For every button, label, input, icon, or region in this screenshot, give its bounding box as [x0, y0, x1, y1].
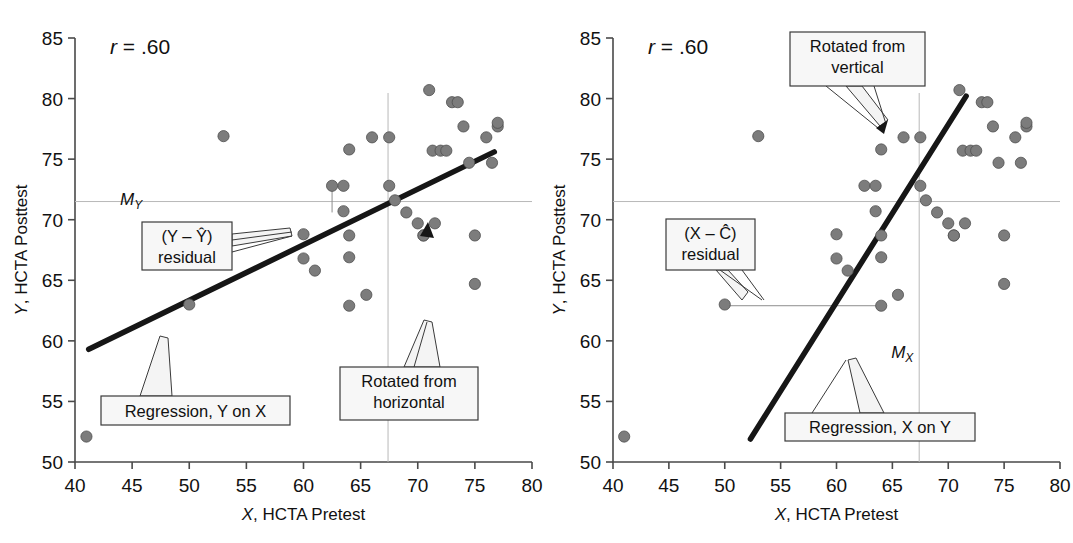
- data-point: [344, 252, 355, 263]
- data-point: [412, 218, 423, 229]
- data-point: [218, 131, 229, 142]
- data-point: [915, 180, 926, 191]
- data-point: [982, 97, 993, 108]
- data-point: [298, 253, 309, 264]
- data-point: [441, 145, 452, 156]
- x-tick-label: 80: [521, 475, 542, 496]
- data-point: [892, 289, 903, 300]
- data-point: [915, 132, 926, 143]
- data-point: [344, 230, 355, 241]
- data-point: [619, 431, 630, 442]
- data-point: [384, 132, 395, 143]
- data-point: [298, 229, 309, 240]
- callout-regression-y-on-x[interactable]: Regression, Y on X: [101, 336, 290, 425]
- callout-label: horizontal: [373, 393, 445, 411]
- x-tick-label: 45: [122, 475, 143, 496]
- data-point: [753, 131, 764, 142]
- data-point: [429, 218, 440, 229]
- callout-label: Regression, Y on X: [125, 402, 267, 420]
- data-point: [870, 206, 881, 217]
- data-point: [344, 300, 355, 311]
- data-point: [954, 84, 965, 95]
- x-tick-label: 75: [464, 475, 485, 496]
- data-point: [338, 180, 349, 191]
- data-point: [931, 207, 942, 218]
- y-axis-title: Y, HCTA Posttest: [12, 184, 31, 315]
- data-point: [987, 121, 998, 132]
- data-point: [481, 132, 492, 143]
- figure-canvas: 5055606570758085404550556065707580X, HCT…: [0, 0, 1073, 543]
- x-tick-label: 70: [407, 475, 428, 496]
- x-tick-label: 60: [293, 475, 314, 496]
- y-tick-label: 60: [580, 331, 601, 352]
- data-point: [943, 218, 954, 229]
- callout-residual-x[interactable]: (X – Ĉ)residual: [666, 219, 764, 300]
- data-point: [469, 230, 480, 241]
- mean-x-label: MX: [891, 343, 914, 365]
- y-tick-label: 70: [42, 210, 63, 231]
- x-tick-label: 45: [658, 475, 679, 496]
- data-point: [492, 117, 503, 128]
- data-point: [859, 180, 870, 191]
- callout-label: Regression, X on Y: [809, 418, 951, 436]
- y-tick-label: 75: [42, 149, 63, 170]
- y-tick-label: 80: [42, 89, 63, 110]
- data-point: [81, 431, 92, 442]
- data-point: [184, 299, 195, 310]
- data-point: [344, 144, 355, 155]
- data-point: [424, 84, 435, 95]
- x-tick-label: 75: [994, 475, 1015, 496]
- x-tick-label: 60: [826, 475, 847, 496]
- x-tick-label: 50: [714, 475, 735, 496]
- callout-tail: [140, 336, 172, 396]
- data-point: [876, 230, 887, 241]
- x-tick-label: 80: [1049, 475, 1070, 496]
- data-point: [338, 206, 349, 217]
- x-tick-label: 70: [938, 475, 959, 496]
- callout-label: vertical: [831, 58, 883, 76]
- data-point: [464, 157, 475, 168]
- callout-tail: [716, 270, 748, 300]
- callout-label: (X – Ĉ): [684, 224, 736, 242]
- y-tick-label: 85: [580, 28, 601, 49]
- y-tick-label: 55: [580, 391, 601, 412]
- two-panel-scatter-figure: 5055606570758085404550556065707580X, HCT…: [0, 0, 1073, 543]
- data-point: [993, 157, 1004, 168]
- y-tick-label: 55: [42, 391, 63, 412]
- data-point: [389, 195, 400, 206]
- data-point: [309, 265, 320, 276]
- callout-rotated-from-horizontal[interactable]: Rotated fromhorizontal: [340, 320, 478, 420]
- callout-label: (Y – Ŷ): [161, 227, 212, 245]
- data-point: [486, 157, 497, 168]
- data-point: [959, 218, 970, 229]
- panel-left: 5055606570758085404550556065707580X, HCT…: [12, 28, 543, 524]
- x-tick-label: 55: [770, 475, 791, 496]
- data-point: [999, 278, 1010, 289]
- r-annotation: r = .60: [110, 35, 170, 58]
- x-tick-label: 65: [350, 475, 371, 496]
- panel-right: 5055606570758085404550556065707580X, HCT…: [550, 28, 1071, 524]
- y-tick-label: 70: [580, 210, 601, 231]
- callout-tail: [848, 358, 884, 413]
- x-tick-label: 65: [882, 475, 903, 496]
- data-point: [366, 132, 377, 143]
- y-tick-label: 50: [580, 452, 601, 473]
- x-tick-label: 55: [236, 475, 257, 496]
- data-point: [831, 253, 842, 264]
- data-point: [876, 252, 887, 263]
- y-tick-label: 60: [42, 331, 63, 352]
- data-point: [876, 300, 887, 311]
- callout-regression-x-on-y[interactable]: Regression, X on Y: [785, 358, 975, 441]
- y-tick-label: 65: [42, 270, 63, 291]
- callout-rotated-from-vertical[interactable]: Rotated fromvertical: [790, 32, 925, 128]
- callout-label: residual: [158, 248, 216, 266]
- callout-leader: [812, 360, 846, 413]
- data-point: [876, 144, 887, 155]
- callout-tail: [232, 228, 292, 246]
- callout-label: residual: [682, 245, 740, 263]
- data-point: [326, 180, 337, 191]
- data-point: [1010, 132, 1021, 143]
- y-tick-label: 50: [42, 452, 63, 473]
- mean-y-label: MY: [120, 190, 143, 212]
- data-point: [361, 289, 372, 300]
